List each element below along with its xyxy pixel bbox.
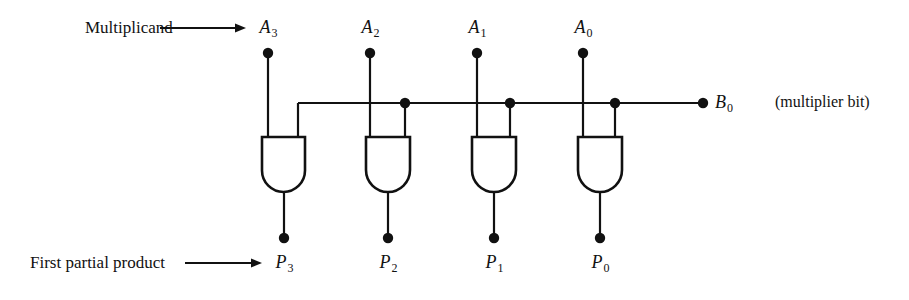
output-label-P3-subscript: 3 — [288, 261, 294, 275]
junction-dot-bus-tap-A2 — [400, 98, 410, 108]
multiplicand-label: Multiplicand — [85, 19, 173, 36]
input-label-A2: A2 — [362, 18, 379, 36]
output-label-P2: P2 — [380, 253, 397, 271]
and-gate-AND0 — [578, 137, 622, 192]
multiplier-label-B0: B0 — [715, 93, 732, 111]
multiplier-label-base: B — [715, 92, 726, 112]
input-label-A1-subscript: 1 — [481, 26, 487, 40]
output-label-P3: P3 — [276, 253, 293, 271]
input-label-A1: A1 — [469, 18, 486, 36]
arrow-layer — [160, 23, 262, 267]
output-label-P1-base: P — [486, 252, 497, 272]
input-label-A3: A3 — [260, 18, 277, 36]
output-label-P0-subscript: 0 — [604, 261, 610, 275]
input-label-A3-subscript: 3 — [272, 26, 278, 40]
input-terminal-dot-A2 — [365, 48, 375, 58]
output-label-P0-base: P — [592, 252, 603, 272]
input-terminal-dot-A3 — [263, 48, 273, 58]
input-terminal-dot-A1 — [472, 48, 482, 58]
circuit-diagram: Multiplicand First partial product (mult… — [0, 0, 909, 300]
output-label-P2-subscript: 2 — [392, 261, 398, 275]
output-terminal-dot-P0 — [595, 233, 605, 243]
multiplier-label-subscript: 0 — [727, 101, 733, 115]
output-label-P2-base: P — [380, 252, 391, 272]
and-gate-AND1 — [472, 137, 516, 192]
multiplier-terminal-dot — [698, 98, 708, 108]
and-gate-layer — [262, 137, 622, 192]
input-label-A0: A0 — [575, 18, 592, 36]
and-gate-AND3 — [262, 137, 305, 192]
input-label-A0-base: A — [575, 17, 586, 37]
input-label-A2-subscript: 2 — [374, 26, 380, 40]
output-label-P0: P0 — [592, 253, 609, 271]
input-label-A1-base: A — [469, 17, 480, 37]
input-label-A3-base: A — [260, 17, 271, 37]
output-label-P3-base: P — [276, 252, 287, 272]
junction-dot-bus-tap-A1 — [505, 98, 515, 108]
and-gate-AND2 — [366, 137, 410, 192]
output-terminal-dot-P3 — [279, 233, 289, 243]
output-label-P1-subscript: 1 — [498, 261, 504, 275]
output-terminal-dot-P2 — [383, 233, 393, 243]
partial-product-arrow-head — [251, 258, 262, 267]
output-label-P1: P1 — [486, 253, 503, 271]
output-terminal-dot-P1 — [489, 233, 499, 243]
input-terminal-dot-A0 — [578, 48, 588, 58]
first-partial-product-label: First partial product — [30, 254, 165, 271]
multiplicand-arrow-head — [235, 23, 246, 32]
junction-dot-bus-tap-A0 — [610, 98, 620, 108]
multiplier-bit-note: (multiplier bit) — [775, 94, 870, 110]
input-label-A0-subscript: 0 — [587, 26, 593, 40]
input-label-A2-base: A — [362, 17, 373, 37]
